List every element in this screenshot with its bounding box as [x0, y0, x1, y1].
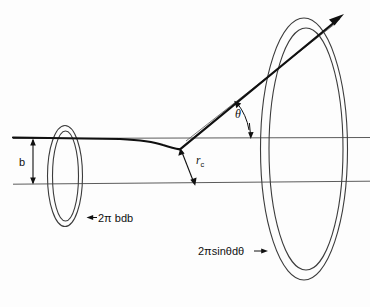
large-ring-outer-ellipse	[261, 18, 348, 280]
diagram-canvas: b rc θ 2π bdb 2πsinθdθ	[0, 0, 370, 307]
rc-subscript: c	[200, 160, 204, 169]
incident-annulus-ring	[48, 126, 83, 227]
outgoing-trajectory-path	[180, 19, 339, 150]
scattering-angle-label: θ	[235, 107, 241, 121]
b-arrowhead-down-icon	[30, 178, 36, 185]
incident-annulus-leader	[87, 215, 98, 220]
rc-arrowhead-lower-icon	[190, 178, 196, 186]
lower-axis-line	[13, 181, 370, 184]
scattering-diagram-figure: b rc θ 2π bdb 2πsinθdθ	[0, 0, 370, 307]
impact-parameter-label: b	[19, 156, 25, 168]
closest-approach-dimension	[178, 148, 196, 186]
scattered-annulus-ring	[261, 18, 348, 280]
rc-dimension-line	[182, 151, 195, 183]
b-arrowhead-up-icon	[30, 139, 36, 146]
scattered-annulus-leader-arrowhead-icon	[261, 249, 268, 254]
incident-annulus-leader-arrowhead-icon	[87, 215, 94, 220]
incident-annulus-label: 2π bdb	[98, 212, 133, 224]
incoming-trajectory-path	[13, 138, 180, 150]
scattered-annulus-leader	[254, 249, 268, 254]
scattered-annulus-label: 2πsinθdθ	[198, 245, 244, 257]
impact-parameter-dimension	[30, 139, 36, 185]
small-ring-inner-ellipse	[53, 131, 79, 221]
large-ring-inner-ellipse	[269, 28, 343, 270]
closest-approach-label: rc	[196, 154, 204, 169]
